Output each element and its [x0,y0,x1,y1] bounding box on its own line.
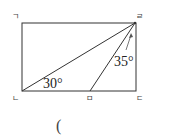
vertex-label-top-right: ㄹ [136,12,143,21]
geometry-diagram: ㄱ ㄹ ㄴ ㅁ ㄷ 30° 35° ( [0,0,180,139]
vertex-label-bottom-right: ㄷ [136,94,143,103]
arrow-head-icon [129,33,133,38]
vertex-dot [134,22,136,24]
angle-label-35: 35° [114,54,134,69]
vertex-label-bottom-left: ㄴ [12,94,19,103]
answer-blank: ( [56,117,61,135]
angle-label-30: 30° [43,76,63,91]
vertex-label-bottom-middle: ㅁ [86,94,93,103]
vertex-label-top-left: ㄱ [12,12,19,21]
